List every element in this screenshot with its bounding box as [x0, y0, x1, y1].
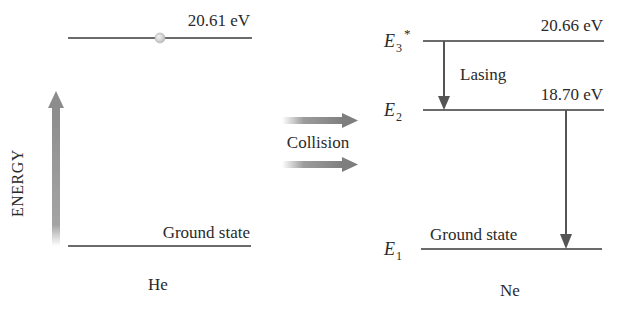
- lasing-arrow-head-icon: [438, 96, 450, 110]
- energy-arrow-shaft: [52, 106, 60, 246]
- ne-e2-symbol: E: [383, 100, 395, 120]
- helium-levels: 20.61 eV Ground state He: [68, 11, 252, 294]
- ne-e1-subscript: 1: [396, 249, 402, 263]
- he-excited-energy: 20.61 eV: [188, 11, 251, 30]
- energy-axis-label: ENERGY: [9, 149, 26, 217]
- ne-e3-subscript: 3: [396, 41, 402, 55]
- collision-arrow-top-head-icon: [342, 113, 358, 128]
- collision-arrow-bottom-shaft: [282, 161, 344, 168]
- collision-transfer: Collision: [282, 113, 358, 172]
- collision-arrow-top-shaft: [282, 117, 344, 124]
- ne-e3-symbol: E: [383, 31, 395, 51]
- collision-label: Collision: [287, 133, 350, 152]
- ne-atom-label: Ne: [500, 281, 520, 300]
- collision-arrow-bottom-head-icon: [342, 157, 358, 172]
- ne-e3-superscript: *: [404, 26, 411, 41]
- energy-arrow-head-icon: [48, 91, 64, 108]
- ne-e1-symbol: E: [383, 239, 395, 259]
- ne-e3-energy: 20.66 eV: [541, 16, 604, 35]
- he-excited-atom-dot: [155, 33, 165, 43]
- ne-e2-energy: 18.70 eV: [541, 85, 604, 104]
- ne-e2-subscript: 2: [396, 110, 402, 124]
- neon-levels: E 3 * 20.66 eV Lasing E 2 18.70 eV E 1 G…: [383, 16, 604, 300]
- energy-axis: ENERGY: [9, 91, 64, 246]
- ne-e1-label: Ground state: [430, 225, 517, 244]
- decay-arrow-head-icon: [560, 234, 572, 249]
- energy-diagram: ENERGY 20.61 eV Ground state He Collisio…: [0, 0, 626, 318]
- lasing-label: Lasing: [460, 65, 507, 84]
- he-ground-label: Ground state: [163, 223, 250, 242]
- he-atom-label: He: [148, 275, 168, 294]
